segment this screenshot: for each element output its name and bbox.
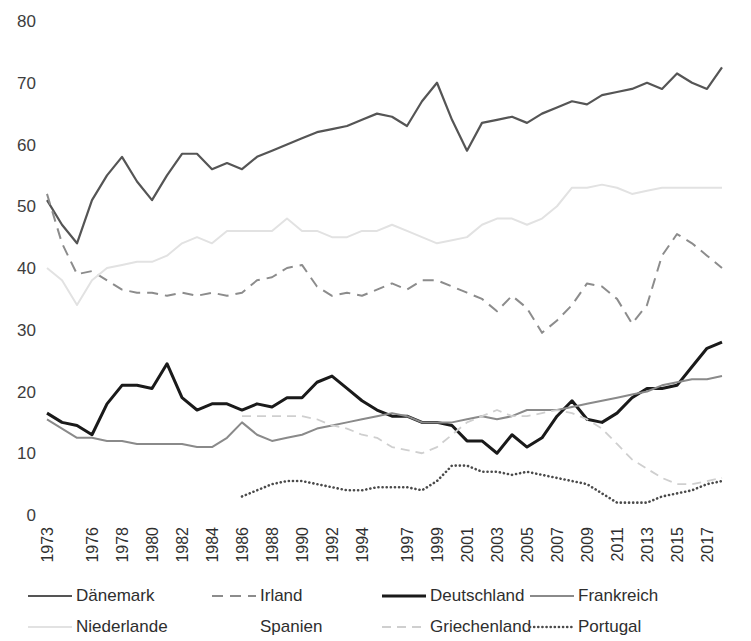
legend-item-label: Griechenland — [430, 617, 531, 636]
x-axis-tick-label: 1986 — [234, 527, 251, 563]
x-axis-tick-label: 2017 — [699, 527, 716, 563]
y-axis-tick-label: 50 — [17, 197, 36, 216]
legend-item-label: Niederlande — [76, 617, 168, 636]
x-axis-tick-label: 1994 — [354, 527, 371, 563]
y-axis-tick-label: 0 — [27, 506, 36, 525]
x-axis-tick-label: 1982 — [174, 527, 191, 563]
legend-item-label: Spanien — [260, 617, 322, 636]
y-axis-tick-label: 20 — [17, 383, 36, 402]
y-axis-tick-label: 70 — [17, 74, 36, 93]
legend-item-label: Dänemark — [76, 586, 155, 605]
y-axis-tick-label: 10 — [17, 444, 36, 463]
y-axis-tick-label: 60 — [17, 136, 36, 155]
x-axis-tick-label: 2009 — [579, 527, 596, 563]
x-axis-tick-label: 1997 — [399, 527, 416, 563]
x-axis-tick-label: 1984 — [204, 527, 221, 563]
chart-container: 01020304050607080 1973197619781980198219… — [0, 0, 751, 641]
x-axis-tick-label: 1990 — [294, 527, 311, 563]
x-axis-tick-label: 1976 — [84, 527, 101, 563]
x-axis-tick-label: 2001 — [459, 527, 476, 563]
legend-item-label: Irland — [260, 586, 303, 605]
x-axis-tick-label: 1992 — [324, 527, 341, 563]
x-axis-tick-label: 1980 — [144, 527, 161, 563]
legend-item-label: Portugal — [578, 617, 641, 636]
y-axis-tick-label: 30 — [17, 321, 36, 340]
x-axis-tick-label: 1973 — [39, 527, 56, 563]
y-axis-ticks: 01020304050607080 — [17, 12, 36, 525]
x-axis-tick-label: 2007 — [549, 527, 566, 563]
x-axis-tick-label: 1978 — [114, 527, 131, 563]
legend-item-spanien[interactable]: Spanien — [260, 617, 322, 636]
x-axis-tick-label: 2011 — [609, 527, 626, 562]
legend-item-label: Frankreich — [578, 586, 658, 605]
x-axis-tick-label: 1988 — [264, 527, 281, 563]
x-axis-tick-label: 1999 — [429, 527, 446, 563]
x-axis-tick-label: 2005 — [519, 527, 536, 563]
y-axis-tick-label: 80 — [17, 12, 36, 31]
x-axis-tick-label: 2013 — [639, 527, 656, 563]
x-axis-tick-label: 2003 — [489, 527, 506, 563]
legend-item-label: Deutschland — [430, 586, 525, 605]
x-axis-tick-label: 2015 — [669, 527, 686, 563]
y-axis-tick-label: 40 — [17, 259, 36, 278]
line-chart: 01020304050607080 1973197619781980198219… — [0, 0, 751, 641]
